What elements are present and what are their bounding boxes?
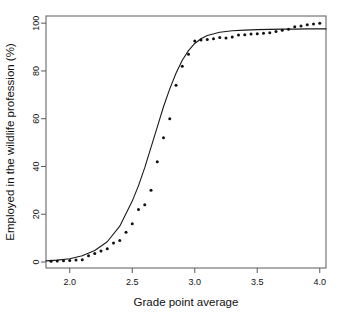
data-point [225,36,228,39]
data-point [268,31,271,34]
data-point [212,37,215,40]
data-point [237,34,240,37]
data-point [106,247,109,250]
data-point [275,30,278,33]
data-point [250,32,253,35]
data-point [87,254,90,257]
x-axis-ticks: 2.02.53.03.54.0 [63,268,326,287]
data-point [112,241,115,244]
data-point [93,252,96,255]
data-point [281,29,284,32]
data-point [75,259,78,262]
data-point [62,259,65,262]
data-point [175,84,178,87]
data-point [137,208,140,211]
data-point [118,239,121,242]
data-point [181,65,184,68]
data-point [168,117,171,120]
x-tick-label: 4.0 [313,277,326,287]
data-point [200,38,203,41]
data-point [243,33,246,36]
data-point [187,53,190,56]
y-tick-label: 20 [31,209,41,219]
x-tick-label: 3.0 [188,277,201,287]
chart-figure: 2.02.53.03.54.0 020406080100 Grade point… [0,0,340,315]
data-point [143,203,146,206]
y-tick-label: 100 [31,16,41,31]
data-point [306,23,309,26]
x-axis-title: Grade point average [134,296,239,308]
data-point [131,222,134,225]
data-point [300,25,303,28]
data-point [287,28,290,31]
data-point [150,189,153,192]
data-point [206,38,209,41]
y-tick-label: 60 [31,114,41,124]
data-point [56,260,59,263]
y-axis-title: Employed in the wildlife profession (%) [4,43,16,241]
x-tick-label: 2.5 [126,277,139,287]
data-point [50,260,53,263]
data-point [312,23,315,26]
data-point [125,231,128,234]
fitted-logistic-curve [46,29,326,261]
x-tick-label: 3.5 [251,277,264,287]
data-point [318,22,321,25]
data-point [231,36,234,39]
data-point [262,32,265,35]
data-point [256,32,259,35]
chart-canvas: 2.02.53.03.54.0 020406080100 Grade point… [0,0,340,315]
data-point [293,25,296,28]
data-point [156,160,159,163]
y-axis-ticks: 020406080100 [31,16,46,265]
data-point [218,36,221,39]
data-point [162,136,165,139]
y-tick-label: 40 [31,161,41,171]
data-point [81,258,84,261]
data-point [68,259,71,262]
data-series-group [46,22,326,263]
data-point [193,40,196,43]
observed-data-points [50,22,322,263]
data-point [100,250,103,253]
y-tick-label: 0 [31,260,41,265]
y-tick-label: 80 [31,66,41,76]
x-tick-label: 2.0 [63,277,76,287]
